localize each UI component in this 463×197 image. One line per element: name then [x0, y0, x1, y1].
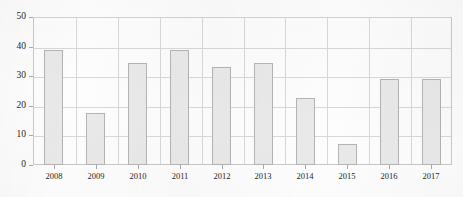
x-axis-label-2016: 2016 — [369, 171, 409, 181]
category-separator-5 — [244, 18, 245, 164]
bar-2009 — [86, 113, 105, 165]
bar-2015 — [338, 144, 357, 165]
chart-title-cropped — [33, 0, 353, 5]
bar-2014 — [296, 98, 315, 165]
category-separator-9 — [411, 18, 412, 164]
x-axis-tick-mark — [263, 165, 264, 169]
x-axis-tick-mark — [347, 165, 348, 169]
gridline-50 — [34, 18, 451, 19]
x-axis-label-2009: 2009 — [76, 171, 116, 181]
category-separator-6 — [285, 18, 286, 164]
x-axis-label-2017: 2017 — [411, 171, 451, 181]
x-axis-tick-mark — [54, 165, 55, 169]
bar-chart: 01020304050 2008200920102011201220132014… — [0, 0, 463, 197]
bar-2013 — [254, 63, 273, 165]
x-axis-tick-mark — [138, 165, 139, 169]
gridline-40 — [34, 48, 451, 49]
category-separator-8 — [369, 18, 370, 164]
bar-2012 — [212, 67, 231, 165]
x-axis-tick-mark — [431, 165, 432, 169]
bar-2011 — [170, 50, 189, 165]
category-separator-4 — [202, 18, 203, 164]
x-axis-label-2013: 2013 — [243, 171, 283, 181]
x-axis-tick-mark — [222, 165, 223, 169]
x-axis-label-2011: 2011 — [160, 171, 200, 181]
x-axis-tick-mark — [389, 165, 390, 169]
bar-2017 — [422, 79, 441, 165]
bar-2010 — [128, 63, 147, 165]
x-axis-tick-mark — [305, 165, 306, 169]
category-separator-3 — [160, 18, 161, 164]
category-separator-2 — [118, 18, 119, 164]
category-separator-7 — [327, 18, 328, 164]
x-axis-label-2008: 2008 — [34, 171, 74, 181]
bar-2016 — [380, 79, 399, 165]
x-axis-label-2012: 2012 — [202, 171, 242, 181]
x-axis-label-2015: 2015 — [327, 171, 367, 181]
x-axis-tick-mark — [180, 165, 181, 169]
x-axis-label-2014: 2014 — [285, 171, 325, 181]
x-axis-tick-mark — [96, 165, 97, 169]
bar-2008 — [44, 50, 63, 165]
category-separator-1 — [76, 18, 77, 164]
x-axis-label-2010: 2010 — [118, 171, 158, 181]
